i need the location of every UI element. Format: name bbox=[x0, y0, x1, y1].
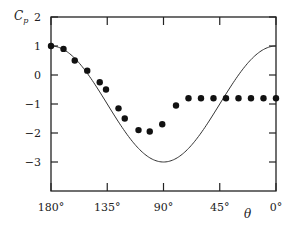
x-tick-label: 45° bbox=[210, 201, 230, 214]
y-tick-label: −1 bbox=[25, 98, 41, 111]
y-tick-label: 1 bbox=[34, 40, 41, 53]
y-tick-label: 0 bbox=[34, 69, 41, 82]
plot-frame bbox=[51, 17, 276, 191]
x-tick-label: 90° bbox=[154, 201, 174, 214]
data-point bbox=[97, 79, 103, 85]
data-point bbox=[122, 115, 128, 121]
y-axis-ticks: 210−1−2−3 bbox=[25, 11, 276, 169]
data-point bbox=[273, 95, 279, 101]
y-axis-label: Cp bbox=[14, 9, 28, 25]
data-point bbox=[198, 95, 204, 101]
data-point bbox=[103, 86, 109, 92]
theory-curve bbox=[51, 46, 276, 162]
data-point bbox=[60, 46, 66, 52]
data-point bbox=[210, 95, 216, 101]
data-point bbox=[223, 95, 229, 101]
data-point bbox=[235, 95, 241, 101]
data-point bbox=[185, 95, 191, 101]
x-tick-label: 0° bbox=[270, 201, 283, 214]
pressure-coefficient-chart: 210−1−2−3 180°135°90°45°0° Cp θ bbox=[0, 0, 294, 240]
data-point bbox=[48, 43, 54, 49]
data-point bbox=[135, 127, 141, 133]
x-axis-label: θ bbox=[244, 207, 252, 221]
x-tick-label: 180° bbox=[38, 201, 65, 214]
y-tick-label: −2 bbox=[25, 127, 41, 140]
experiment-points bbox=[48, 43, 279, 135]
data-point bbox=[147, 128, 153, 134]
data-point bbox=[84, 67, 90, 73]
y-tick-label: 2 bbox=[34, 11, 41, 24]
data-point bbox=[115, 105, 121, 111]
data-point bbox=[248, 95, 254, 101]
y-tick-label: −3 bbox=[25, 156, 41, 169]
plot-border bbox=[51, 17, 276, 191]
x-tick-label: 135° bbox=[94, 201, 121, 214]
x-axis-ticks: 180°135°90°45°0° bbox=[38, 17, 283, 214]
data-point bbox=[173, 102, 179, 108]
data-point bbox=[260, 95, 266, 101]
data-point bbox=[159, 121, 165, 127]
data-point bbox=[72, 57, 78, 63]
